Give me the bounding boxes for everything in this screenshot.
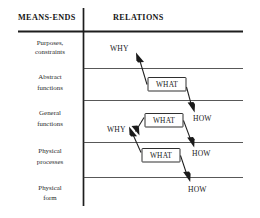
how-label-2: HOW (192, 149, 211, 158)
how-label-1: HOW (193, 114, 212, 123)
header-means-ends: MEANS-ENDS (18, 13, 76, 22)
what-label-3: WHAT (150, 151, 172, 160)
how-arrowhead-1 (188, 102, 195, 113)
header-relations: RELATIONS (113, 13, 164, 22)
why-label-1: WHY (110, 44, 129, 53)
level-label-physical-processes: Physical processes (37, 147, 64, 165)
diagram-canvas: MEANS-ENDS RELATIONS Purposes, constrain… (0, 0, 260, 218)
level-label-physical-form: Physical form (38, 184, 61, 201)
how-label-3: HOW (188, 185, 207, 194)
level-label-line1: Physical (38, 184, 61, 191)
level-label-line2: form (43, 194, 57, 201)
level-label-line2: functions (37, 120, 63, 127)
level-label-line1: Abstract (38, 73, 61, 80)
why-arrow-1 (140, 60, 148, 85)
level-label-line1: General (39, 109, 61, 116)
level-label-line2: processes (37, 158, 64, 165)
what-label-2: WHAT (153, 116, 175, 125)
means-ends-relations-diagram: MEANS-ENDS RELATIONS Purposes, constrain… (0, 0, 260, 218)
level-label-general-functions: General functions (37, 109, 63, 127)
level-label-line2: functions (37, 84, 63, 91)
level-label-line1: Physical (38, 147, 61, 154)
what-label-1: WHAT (156, 80, 178, 89)
how-arrowhead-3 (183, 172, 190, 183)
level-label-line2: constraints (35, 48, 65, 55)
level-label-line1: Purposes, (37, 39, 64, 46)
level-label-purposes: Purposes, constraints (35, 39, 65, 55)
level-label-abstract-functions: Abstract functions (37, 73, 63, 91)
why-arrowhead-1 (136, 53, 144, 63)
